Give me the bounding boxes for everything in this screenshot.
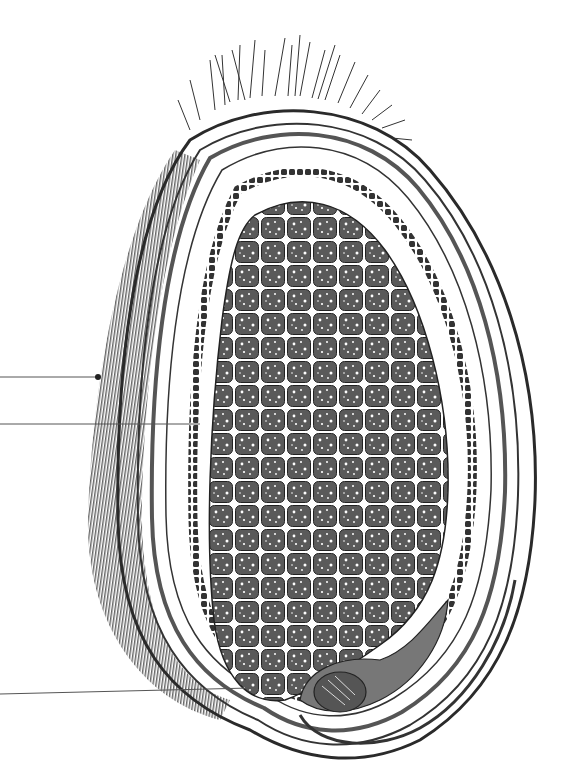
illustration-canvas bbox=[0, 0, 571, 783]
grain-section-engraving bbox=[0, 0, 571, 783]
leader-dot bbox=[95, 374, 101, 380]
endosperm bbox=[209, 202, 448, 701]
